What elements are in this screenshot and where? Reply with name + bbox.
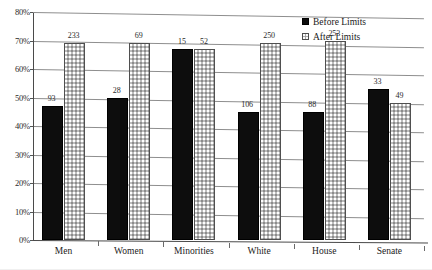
plot-area [33,12,425,240]
bar-chart: 0%10%20%30%40%50%60%70%80% MenWomenMinor… [0,0,432,270]
x-axis-tick-mark [163,242,164,247]
x-axis-baseline [33,240,428,243]
bar-men-before-limits [42,106,63,240]
y-axis: 0%10%20%30%40%50%60%70%80% [0,0,30,270]
bar-senate-after-limits [390,103,411,240]
bar-house-before-limits [303,112,324,240]
x-axis-tick-mark [98,241,99,246]
legend-label-after-limits: After Limits [313,32,360,42]
bar-label-senate-before-limits: 33 [374,77,382,86]
bar-label-minorities-after-limits: 52 [200,37,208,46]
legend-item-after: After Limits [302,29,422,44]
y-axis-tick-label: 20% [15,178,30,188]
y-axis-tick-label: 60% [15,64,30,74]
bar-label-minorities-before-limits: 15 [178,37,186,46]
x-axis-tick-mark [229,243,230,248]
bar-label-men-after-limits: 233 [68,31,80,40]
bar-label-senate-after-limits: 49 [396,91,404,100]
x-axis-tick-mark [294,244,295,249]
y-axis-tick-label: 10% [15,207,30,217]
x-axis-category-minorities: Minorities [174,246,214,256]
x-axis-tick-mark [359,245,360,250]
bar-white-after-limits [260,43,281,240]
legend-label-before-limits: Before Limits [313,17,366,27]
chart-legend: Before Limits After Limits [302,14,422,44]
bar-senate-before-limits [368,89,389,240]
x-axis-category-white: White [247,246,270,256]
bar-label-women-before-limits: 28 [113,86,121,95]
bar-minorities-after-limits [194,49,215,240]
x-axis-category-men: Men [55,246,72,256]
x-axis-category-senate: Senate [377,246,402,256]
bar-women-after-limits [129,43,150,240]
y-axis-tick-label: 50% [15,93,30,103]
x-axis-category-women: Women [114,246,143,256]
y-axis-tick-label: 40% [15,121,30,131]
bar-label-men-before-limits: 93 [48,94,56,103]
x-axis-tick-mark [424,246,425,251]
legend-swatch-after-limits [302,33,309,40]
x-axis-category-house: House [312,246,336,256]
bar-label-white-after-limits: 250 [263,31,275,40]
y-axis-tick-label: 30% [15,150,30,160]
legend-swatch-before-limits [302,18,309,25]
bar-label-white-before-limits: 106 [241,100,253,109]
legend-item-before: Before Limits [302,14,422,29]
bar-minorities-before-limits [172,49,193,240]
bar-men-after-limits [64,43,85,240]
y-axis-tick-label: 70% [15,36,30,46]
bar-house-after-limits [325,41,346,241]
y-axis-tick-label: 80% [15,7,30,17]
y-axis-tick-label: 0% [19,235,30,245]
bar-women-before-limits [107,98,128,241]
bar-label-women-after-limits: 69 [135,31,143,40]
bar-white-before-limits [238,112,259,240]
bar-label-house-before-limits: 88 [308,100,316,109]
